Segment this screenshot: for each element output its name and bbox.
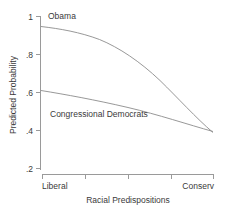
series-label-congressional-democrats: Congressional Democrats (50, 109, 148, 119)
y-axis-ticks (36, 17, 40, 169)
y-tick-label-08: .8 (26, 50, 33, 60)
y-tick-label-1: 1 (28, 12, 33, 22)
y-tick-label-02: .2 (26, 164, 33, 174)
x-axis-ticks (43, 175, 214, 179)
line-chart-plot: 1 .8 .6 .4 .2 Liberal Conserv Racial Pre… (0, 0, 242, 211)
y-axis-title: Predicted Probability (8, 55, 18, 134)
chart-figure: 1 .8 .6 .4 .2 Liberal Conserv Racial Pre… (0, 0, 242, 211)
y-tick-label-04: .4 (26, 126, 33, 136)
x-tick-label-conserv: Conserv (182, 181, 214, 191)
y-tick-label-06: .6 (26, 88, 33, 98)
x-tick-label-liberal: Liberal (42, 181, 68, 191)
series-label-obama: Obama (48, 11, 76, 21)
x-axis-title: Racial Predispositions (86, 195, 170, 205)
